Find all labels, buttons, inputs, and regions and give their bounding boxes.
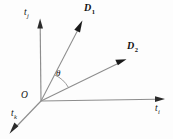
axis-ti-label-sub: i [158,108,160,115]
vector-d1-line [41,29,79,101]
axis-tj [37,19,43,102]
axis-tj-label: tj [24,8,28,19]
axis-tk-label-sub: k [14,113,17,120]
axis-ti-line [41,99,156,101]
axis-ti-arrowhead [155,96,165,102]
axis-tk-label: tk [11,109,17,120]
axis-ti [41,96,165,102]
angle-theta-label: θ [56,69,60,78]
vector-d1-label-sub: 1 [92,8,95,15]
diagram-canvas [0,0,173,139]
vector-d1-label: D1 [84,3,94,16]
vector-d2 [41,59,127,101]
vector-d2-line [41,63,119,101]
origin-label: O [21,91,28,101]
axis-tj-label-sub: j [27,12,29,19]
vector-d2-label-sub: 2 [135,46,138,53]
axis-tj-arrowhead [37,19,43,29]
vector-d2-label-base: D [127,40,134,51]
axis-tj-line [40,27,41,101]
vector-d2-label: D2 [127,41,137,54]
vector-d1 [41,21,82,101]
vector-diagram-figure: O tj ti tk D1 D2 θ [0,0,173,139]
axis-tk-arrowhead [10,123,19,134]
vector-d1-label-base: D [84,2,91,13]
axis-ti-label: ti [155,104,159,115]
axis-tk-line [16,101,42,128]
vector-d1-arrowhead [74,21,82,33]
